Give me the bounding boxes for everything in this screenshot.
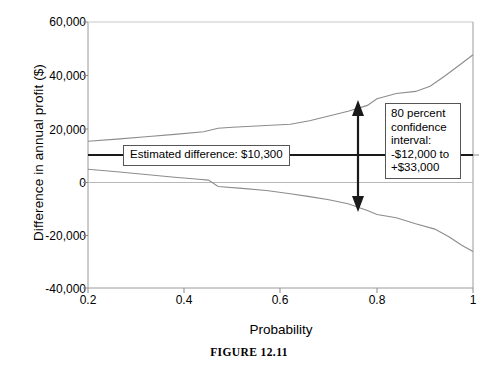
ci-line-5: +$33,000 [391, 161, 456, 175]
ci-line-3: interval: [391, 134, 456, 148]
lower-confidence-curve [88, 169, 473, 251]
ci-line-1: 80 percent [391, 107, 456, 121]
figure-container: Difference in annual profit ($) 60,000 4… [0, 0, 498, 372]
ci-line-2: confidence [391, 121, 456, 135]
y-axis-ticks [83, 22, 88, 288]
estimated-difference-label: Estimated difference: $10,300 [123, 145, 290, 166]
plot-area [0, 0, 498, 372]
figure-caption: FIGURE 12.11 [0, 346, 498, 358]
confidence-interval-label: 80 percent confidence interval: -$12,000… [385, 103, 461, 179]
ci-line-4: -$12,000 to [391, 148, 456, 162]
x-axis-ticks [88, 288, 473, 293]
